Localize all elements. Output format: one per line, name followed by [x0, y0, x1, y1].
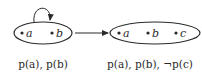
- element-label-a: a: [123, 27, 130, 40]
- state-transition-diagram: a b p(a), p(b) a b c p(a), p(b), ¬p(c): [0, 0, 202, 74]
- element-label-a: a: [26, 27, 33, 40]
- left-state-caption: p(a), p(b): [18, 58, 68, 70]
- element-dot-c: [174, 31, 177, 34]
- element-label-b: b: [152, 27, 159, 40]
- right-state: a b c p(a), p(b), ¬p(c): [107, 22, 200, 70]
- element-dot-a: [20, 31, 23, 34]
- element-label-c: c: [180, 27, 186, 40]
- left-state: a b p(a), p(b): [14, 8, 72, 70]
- element-dot-a: [117, 31, 120, 34]
- element-dot-b: [146, 31, 149, 34]
- self-loop-arrow: [34, 8, 50, 22]
- right-state-caption: p(a), p(b), ¬p(c): [107, 58, 193, 70]
- element-dot-b: [50, 31, 53, 34]
- element-label-b: b: [56, 27, 63, 40]
